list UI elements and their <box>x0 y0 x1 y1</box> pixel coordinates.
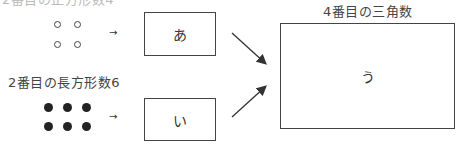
filled-dot <box>44 103 53 112</box>
box-i-label: い <box>173 110 187 130</box>
open-circle <box>54 21 61 28</box>
top-label-partial: 2番目の正方形数4 <box>2 0 114 8</box>
filled-dot <box>82 122 91 131</box>
arrow-right-icon: → <box>109 111 117 122</box>
filled-dot <box>44 122 53 131</box>
filled-dot <box>82 103 91 112</box>
open-circle <box>74 41 81 48</box>
rectangle-number-label: 2番目の長方形数6 <box>8 72 120 91</box>
open-circle <box>54 41 61 48</box>
converging-arrows-icon <box>225 25 275 125</box>
box-a-label: あ <box>173 24 187 44</box>
arrow-right-icon: → <box>109 27 117 38</box>
open-circle <box>74 21 81 28</box>
filled-dot <box>63 122 72 131</box>
triangular-number-label: 4番目の三角数 <box>323 1 413 20</box>
box-u-label: う <box>361 66 375 86</box>
answer-box-a: あ <box>144 12 216 56</box>
answer-box-u: う <box>280 23 455 129</box>
filled-dot <box>63 103 72 112</box>
answer-box-i: い <box>144 98 216 141</box>
